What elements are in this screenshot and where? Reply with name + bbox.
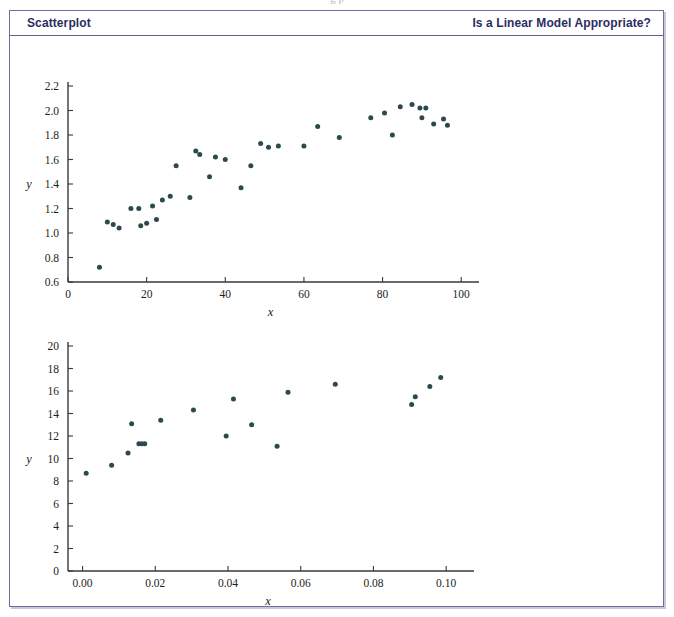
data-point — [154, 217, 159, 222]
box-header: Scatterplot Is a Linear Model Appropriat… — [10, 11, 663, 36]
data-point — [168, 194, 173, 199]
data-point — [333, 382, 338, 387]
y-tick-label: 0 — [53, 565, 59, 577]
data-point — [111, 222, 116, 227]
y-tick-label: 10 — [48, 453, 60, 465]
data-point — [231, 396, 236, 401]
data-point — [193, 148, 198, 153]
data-point — [223, 157, 228, 162]
y-tick-label: 14 — [48, 408, 60, 420]
data-point — [128, 206, 133, 211]
data-point — [213, 155, 218, 160]
data-point — [410, 102, 415, 107]
x-axis-title: x — [267, 305, 274, 319]
data-point — [286, 390, 291, 395]
y-tick-label: 20 — [48, 340, 60, 352]
data-point — [276, 144, 281, 149]
y-axis-title: y — [24, 452, 32, 466]
data-point — [187, 195, 192, 200]
x-tick-label: 0.02 — [145, 577, 165, 589]
data-point — [445, 123, 450, 128]
data-point — [413, 394, 418, 399]
x-tick-label: 0.06 — [291, 577, 311, 589]
data-point — [129, 421, 134, 426]
scatterplot-top-svg: 0.60.81.01.21.41.61.82.02.2020406080100x… — [10, 36, 510, 326]
data-point — [150, 204, 155, 209]
data-point — [248, 163, 253, 168]
y-tick-label: 18 — [48, 363, 60, 375]
y-tick-label: 0.8 — [45, 252, 60, 264]
data-point — [174, 163, 179, 168]
data-point — [160, 197, 165, 202]
data-point — [224, 434, 229, 439]
data-point — [191, 408, 196, 413]
data-point — [97, 265, 102, 270]
x-axis-title: x — [264, 594, 271, 606]
scatterplot-bottom: 024681012141618200.000.020.040.060.080.1… — [10, 326, 510, 606]
data-point — [438, 375, 443, 380]
x-tick-label: 0.10 — [436, 577, 456, 589]
data-point — [417, 106, 422, 111]
data-point — [390, 133, 395, 138]
data-point — [301, 144, 306, 149]
y-tick-label: 2 — [53, 543, 59, 555]
data-point — [431, 121, 436, 126]
x-tick-label: 0.00 — [72, 577, 92, 589]
y-tick-label: 6 — [53, 498, 59, 510]
data-point — [138, 223, 143, 228]
y-tick-label: 0.6 — [45, 276, 60, 288]
data-point — [275, 444, 280, 449]
data-point — [382, 110, 387, 115]
y-tick-label: 12 — [48, 430, 60, 442]
x-tick-label: 20 — [141, 288, 153, 300]
y-tick-label: 1.4 — [45, 178, 60, 190]
data-point — [368, 115, 373, 120]
data-point — [423, 106, 428, 111]
data-point — [239, 185, 244, 190]
x-tick-label: 80 — [377, 288, 389, 300]
x-tick-label: 100 — [453, 288, 471, 300]
scatterplot-top: 0.60.81.01.21.41.61.82.02.2020406080100x… — [10, 36, 510, 326]
top-cutoff-text: g p — [0, 0, 674, 8]
data-point — [337, 135, 342, 140]
data-point — [398, 104, 403, 109]
box-body: 0.60.81.01.21.41.61.82.02.2020406080100x… — [10, 36, 663, 606]
data-point — [197, 152, 202, 157]
data-point — [441, 117, 446, 122]
x-tick-label: 60 — [298, 288, 310, 300]
y-axis-title: y — [24, 177, 32, 191]
x-tick-label: 0 — [65, 288, 71, 300]
data-point — [315, 124, 320, 129]
section-heading: Is a Linear Model Appropriate? — [472, 16, 651, 30]
content-box: Scatterplot Is a Linear Model Appropriat… — [9, 10, 664, 607]
y-tick-label: 1.0 — [45, 227, 60, 239]
data-point — [109, 463, 114, 468]
y-tick-label: 4 — [53, 520, 59, 532]
y-tick-label: 1.2 — [45, 203, 60, 215]
y-tick-label: 8 — [53, 475, 59, 487]
data-point — [117, 226, 122, 231]
y-tick-label: 1.6 — [45, 154, 60, 166]
data-point — [409, 402, 414, 407]
data-point — [126, 450, 131, 455]
x-tick-label: 40 — [220, 288, 232, 300]
data-point — [158, 418, 163, 423]
page-title: Scatterplot — [27, 16, 91, 30]
data-point — [136, 206, 141, 211]
x-tick-label: 0.08 — [363, 577, 383, 589]
y-tick-label: 16 — [48, 385, 60, 397]
y-tick-label: 1.8 — [45, 129, 60, 141]
data-point — [144, 221, 149, 226]
y-tick-label: 2.2 — [45, 80, 60, 92]
data-point — [84, 471, 89, 476]
y-tick-label: 2.0 — [45, 105, 60, 117]
data-point — [142, 441, 147, 446]
data-point — [258, 141, 263, 146]
data-point — [427, 384, 432, 389]
data-point — [207, 174, 212, 179]
data-point — [419, 115, 424, 120]
data-point — [266, 145, 271, 150]
data-point — [105, 219, 110, 224]
x-tick-label: 0.04 — [218, 577, 238, 589]
data-point — [249, 422, 254, 427]
